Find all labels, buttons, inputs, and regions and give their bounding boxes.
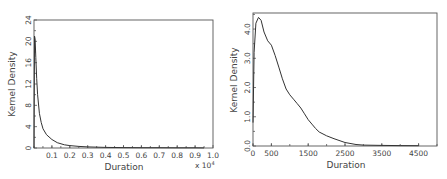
x-tick-label: 0.5 [118, 151, 130, 160]
x-tick-label: 0.3 [82, 151, 94, 160]
right-y-axis-label: Kernel Density [229, 47, 239, 113]
x-tick-label: 3500 [372, 149, 391, 158]
x-tick-label: 1500 [299, 149, 318, 158]
y-tick-label: 1.0 [243, 111, 252, 123]
left-y-axis-ticks: 04812162024 [24, 15, 37, 150]
y-tick-label: 2.0 [243, 81, 252, 93]
left-density-chart: 04812162024 0.10.20.30.40.50.60.70.80.91… [7, 15, 219, 172]
x-tick-label: 0.4 [100, 151, 112, 160]
x-tick-label: 0.8 [171, 151, 183, 160]
x-tick-label: 0.7 [153, 151, 165, 160]
x-tick-label: 500 [264, 149, 279, 158]
y-tick-label: 12 [24, 79, 33, 89]
x-tick-label: 0.9 [189, 151, 201, 160]
y-tick-label: 4 [24, 124, 33, 129]
right-x-axis-label: Duration [326, 160, 365, 170]
left-x-multiplier: x 104 [195, 160, 215, 170]
y-tick-label: 4.0 [243, 23, 252, 35]
left-density-curve [34, 36, 204, 148]
x-tick-label: 2500 [335, 149, 354, 158]
x-tick-label: 0.2 [64, 151, 76, 160]
right-plot-frame [253, 13, 437, 146]
y-tick-label: 20 [24, 36, 33, 46]
x-tick-label: 0.6 [135, 151, 147, 160]
x-tick-label: 1.0 [207, 151, 219, 160]
left-y-axis-label: Kernel Density [7, 51, 17, 117]
x-tick-label: 0 [251, 149, 256, 158]
right-density-curve [253, 17, 419, 145]
figure: 04812162024 0.10.20.30.40.50.60.70.80.91… [0, 0, 447, 179]
y-tick-label: 24 [24, 15, 33, 25]
y-tick-label: 8 [24, 103, 33, 108]
x-tick-label: 0.1 [46, 151, 58, 160]
left-x-axis-label: Duration [104, 162, 143, 172]
x-tick-label: 4500 [409, 149, 428, 158]
left-plot-frame [34, 20, 213, 148]
y-tick-label: 3.0 [243, 52, 252, 64]
y-tick-label: 0 [24, 145, 33, 150]
y-tick-label: 16 [24, 58, 33, 68]
right-density-chart: 0.01.02.03.04.0 05001500250035004500 Dur… [229, 13, 437, 170]
